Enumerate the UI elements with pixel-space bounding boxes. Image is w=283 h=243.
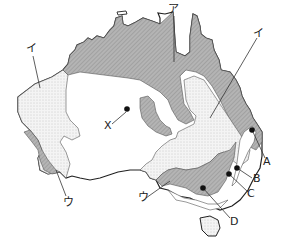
point-d-dot [200, 185, 206, 191]
point-x-dot [124, 106, 130, 112]
island-north [117, 11, 127, 15]
label-i-east: イ [253, 28, 264, 39]
label-u-west: ウ [63, 197, 74, 208]
point-c-dot [226, 171, 232, 177]
label-a: ア [168, 4, 179, 15]
point-b-dot [234, 165, 240, 171]
label-x: X [104, 120, 112, 131]
label-point-a: A [263, 156, 271, 167]
label-point-c: C [247, 188, 255, 199]
label-point-b: B [253, 173, 261, 184]
label-u-south: ウ [138, 192, 149, 203]
australia-map [0, 0, 283, 243]
label-i-west: イ [26, 43, 37, 54]
label-point-d: D [230, 216, 238, 227]
tasmania-outline [200, 216, 220, 236]
point-a-dot [249, 127, 255, 133]
